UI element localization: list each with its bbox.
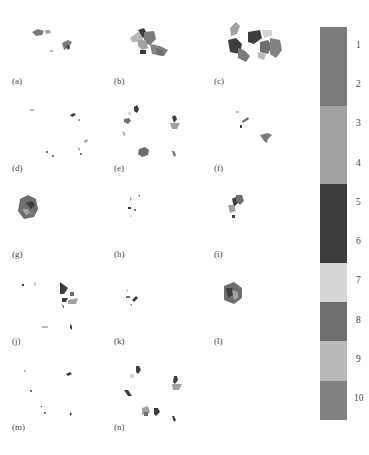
panel-i: (i) bbox=[212, 183, 302, 268]
panel-label: (i) bbox=[214, 249, 223, 259]
segmentation-map bbox=[10, 10, 100, 80]
colorbar-band bbox=[320, 27, 347, 106]
segmentation-map bbox=[212, 10, 302, 80]
colorbar-band bbox=[320, 106, 347, 185]
panel-l: (l) bbox=[212, 270, 302, 355]
segmentation-map bbox=[212, 183, 302, 253]
panel-j: (j) bbox=[10, 270, 100, 355]
segmentation-map bbox=[112, 270, 202, 340]
panel-h: (h) bbox=[112, 183, 202, 268]
colorbar-tick-label: 9 bbox=[356, 354, 361, 364]
panel-label: (b) bbox=[114, 76, 125, 86]
panel-label: (g) bbox=[12, 249, 23, 259]
colorbar-tick-label: 10 bbox=[354, 393, 364, 403]
panel-m: (m) bbox=[10, 356, 100, 441]
colorbar-tick-label: 3 bbox=[356, 118, 361, 128]
colorbar-band bbox=[320, 302, 347, 341]
segmentation-map bbox=[112, 97, 202, 167]
panel-label: (n) bbox=[114, 422, 125, 432]
panel-label: (c) bbox=[214, 76, 224, 86]
colorbar-tick-label: 2 bbox=[356, 79, 361, 89]
colorbar bbox=[320, 27, 347, 420]
colorbar-tick-label: 4 bbox=[356, 158, 361, 168]
panel-label: (j) bbox=[12, 336, 21, 346]
colorbar-tick-label: 6 bbox=[356, 236, 361, 246]
colorbar-tick-label: 7 bbox=[356, 275, 361, 285]
panel-label: (d) bbox=[12, 163, 23, 173]
segmentation-map bbox=[10, 270, 100, 340]
panel-b: (b) bbox=[112, 10, 202, 95]
segmentation-map bbox=[112, 183, 202, 253]
colorbar-band bbox=[320, 184, 347, 263]
segmentation-map bbox=[10, 183, 100, 253]
panel-label: (k) bbox=[114, 336, 125, 346]
panel-g: (g) bbox=[10, 183, 100, 268]
panel-label: (e) bbox=[114, 163, 124, 173]
colorbar-tick-label: 5 bbox=[356, 197, 361, 207]
panel-label: (l) bbox=[214, 336, 223, 346]
panel-e: (e) bbox=[112, 97, 202, 182]
panel-c: (c) bbox=[212, 10, 302, 95]
colorbar-band bbox=[320, 381, 347, 420]
panel-a: (a) bbox=[10, 10, 100, 95]
segmentation-map bbox=[10, 356, 100, 426]
segmentation-map bbox=[10, 97, 100, 167]
panel-label: (a) bbox=[12, 76, 22, 86]
segmentation-map bbox=[112, 356, 202, 426]
panel-n: (n) bbox=[112, 356, 202, 441]
colorbar-band bbox=[320, 263, 347, 302]
panel-label: (h) bbox=[114, 249, 125, 259]
panel-label: (f) bbox=[214, 163, 223, 173]
colorbar-band bbox=[320, 341, 347, 380]
panel-f: (f) bbox=[212, 97, 302, 182]
segmentation-map bbox=[212, 270, 302, 340]
panel-d: (d) bbox=[10, 97, 100, 182]
colorbar-tick-label: 8 bbox=[356, 315, 361, 325]
panel-k: (k) bbox=[112, 270, 202, 355]
panel-label: (m) bbox=[12, 422, 25, 432]
segmentation-map bbox=[112, 10, 202, 80]
colorbar-tick-label: 1 bbox=[356, 40, 361, 50]
segmentation-map bbox=[212, 97, 302, 167]
